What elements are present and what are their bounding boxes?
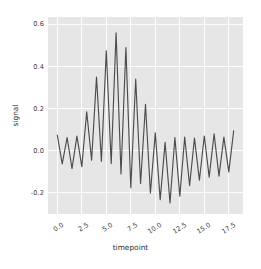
x-axis-tick-labels: 0.02.55.07.510.012.515.017.5: [0, 219, 261, 245]
x-tick-label: 10.0: [144, 221, 164, 237]
x-tick-label: 15.0: [193, 221, 213, 237]
y-tick-label: -0.2: [31, 189, 44, 197]
y-tick-label: 0.0: [33, 147, 44, 155]
x-axis-label: timepoint: [0, 243, 261, 252]
signal-line-path: [57, 33, 233, 203]
y-tick-label: 0.2: [33, 105, 44, 113]
chart-figure: 0.60.40.20.0-0.2 0.02.55.07.510.012.515.…: [0, 0, 261, 269]
x-tick-label: 17.5: [218, 221, 238, 237]
x-tick-label: 0.0: [46, 221, 66, 237]
x-tick-label: 5.0: [95, 221, 115, 237]
x-tick-label: 12.5: [169, 221, 189, 237]
plot-area: [48, 17, 243, 214]
x-tick-label: 2.5: [71, 221, 91, 237]
y-axis-label: signal: [11, 17, 21, 214]
x-tick-label: 7.5: [120, 221, 140, 237]
signal-line-series: [48, 17, 243, 214]
y-tick-label: 0.4: [33, 63, 44, 71]
y-tick-label: 0.6: [33, 20, 44, 28]
